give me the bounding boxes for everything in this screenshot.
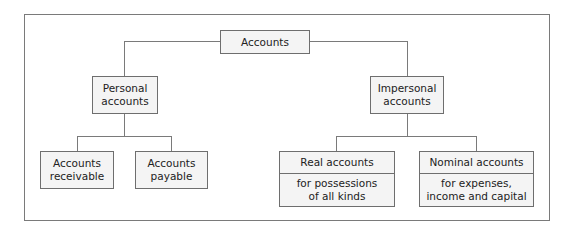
node-accounts: Accounts [220,30,310,54]
connector [336,136,477,137]
connector [407,41,408,76]
connector [77,136,172,137]
node-label: payable [136,170,207,183]
connector [336,136,337,151]
node-label: receivable [41,170,113,183]
node-label: Personal [93,82,157,95]
connector [124,41,220,42]
connector [124,41,125,76]
connector [171,136,172,151]
connector [309,41,407,42]
node-personal-accounts: Personal accounts [92,76,158,114]
connector [476,136,477,151]
node-accounts-payable: Accounts payable [135,151,208,189]
node-title: Nominal accounts [429,156,523,169]
node-description: for possessions [280,177,394,190]
node-accounts-receivable: Accounts receivable [40,151,114,189]
connector [124,113,125,136]
node-impersonal-accounts: Impersonal accounts [370,76,444,114]
node-title: Real accounts [300,156,373,169]
connector [77,136,78,151]
node-label: Accounts [136,157,207,170]
node-real-accounts: Real accounts for possessions of all kin… [279,151,395,207]
node-label: Impersonal [371,82,443,95]
node-label: Accounts [221,36,309,49]
connector [407,113,408,136]
node-label: accounts [371,95,443,108]
node-label: Accounts [41,157,113,170]
node-description: income and capital [420,190,533,203]
node-description: of all kinds [280,190,394,203]
node-label: accounts [93,95,157,108]
node-description: for expenses, [420,177,533,190]
node-nominal-accounts: Nominal accounts for expenses, income an… [419,151,534,207]
